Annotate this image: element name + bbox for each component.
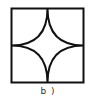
astroid-square-diagram (10, 7, 86, 85)
concave-star-curve (12, 9, 84, 83)
figure-caption: b ) (0, 86, 88, 96)
